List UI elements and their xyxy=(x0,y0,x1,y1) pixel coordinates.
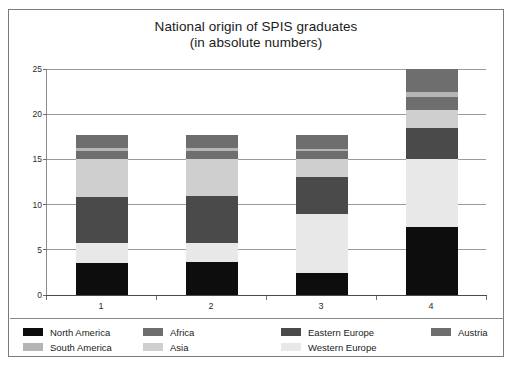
bar-segment-western-europe[interactable] xyxy=(406,159,458,227)
y-tick-mark-25 xyxy=(43,69,47,70)
y-tick-label-0: 0 xyxy=(37,290,42,300)
chart-title-line1: National origin of SPIS graduates xyxy=(155,19,358,34)
bar-segment-south-america[interactable] xyxy=(186,148,238,152)
y-tick-mark-15 xyxy=(43,159,47,160)
bar-segment-africa[interactable] xyxy=(296,151,348,158)
y-tick-label-5: 5 xyxy=(37,245,42,255)
chart-legend: North AmericaSouth AmericaAfricaAsiaEast… xyxy=(23,326,493,356)
x-tick-mark-end xyxy=(486,296,487,300)
x-tick-mark-2 xyxy=(266,296,267,300)
legend-swatch-icon xyxy=(431,328,451,336)
bar-segment-north-america[interactable] xyxy=(406,227,458,295)
legend-swatch-icon xyxy=(143,328,163,336)
chart-title: National origin of SPIS graduates (in ab… xyxy=(9,19,503,51)
x-tick-label-3: 3 xyxy=(318,301,323,311)
legend-label: Africa xyxy=(170,327,194,338)
legend-item-western-europe[interactable]: Western Europe xyxy=(281,341,376,353)
bar-segment-south-america[interactable] xyxy=(296,149,348,152)
legend-item-south-america[interactable]: South America xyxy=(23,341,112,353)
plot-inner: 0510152025 xyxy=(46,69,486,295)
bar-segment-austria[interactable] xyxy=(296,135,348,149)
bar-segment-africa[interactable] xyxy=(406,97,458,110)
legend-label: Austria xyxy=(458,327,488,338)
bar-segment-north-america[interactable] xyxy=(186,262,238,295)
bar-segment-africa[interactable] xyxy=(186,151,238,159)
bar-segment-eastern-europe[interactable] xyxy=(76,197,128,242)
legend-label: North America xyxy=(50,327,110,338)
y-tick-mark-20 xyxy=(43,114,47,115)
legend-swatch-icon xyxy=(23,343,43,351)
chart-frame: National origin of SPIS graduates (in ab… xyxy=(8,9,504,357)
y-tick-label-25: 25 xyxy=(33,64,42,74)
legend-label: Western Europe xyxy=(308,342,376,353)
legend-swatch-icon xyxy=(281,343,301,351)
chart-subtitle: (in absolute numbers) xyxy=(9,35,503,51)
y-tick-mark-10 xyxy=(43,204,47,205)
legend-separator xyxy=(10,318,504,319)
bar-segment-western-europe[interactable] xyxy=(76,243,128,264)
bar-segment-south-america[interactable] xyxy=(76,148,128,152)
legend-label: Eastern Europe xyxy=(308,327,374,338)
legend-item-africa[interactable]: Africa xyxy=(143,326,194,338)
bar-segment-africa[interactable] xyxy=(76,151,128,159)
bar-4[interactable] xyxy=(406,69,458,295)
legend-item-eastern-europe[interactable]: Eastern Europe xyxy=(281,326,374,338)
legend-label: Asia xyxy=(170,342,188,353)
bar-segment-asia[interactable] xyxy=(296,159,348,178)
legend-swatch-icon xyxy=(143,343,163,351)
x-tick-mark-3 xyxy=(376,296,377,300)
bar-segment-north-america[interactable] xyxy=(296,273,348,295)
bar-segment-austria[interactable] xyxy=(406,69,458,92)
legend-swatch-icon xyxy=(23,328,43,336)
y-tick-label-20: 20 xyxy=(33,109,42,119)
plot-area: 0510152025 xyxy=(46,69,486,295)
bar-segment-asia[interactable] xyxy=(186,159,238,196)
legend-label: South America xyxy=(50,342,112,353)
legend-item-asia[interactable]: Asia xyxy=(143,341,188,353)
bar-3[interactable] xyxy=(296,135,348,295)
x-tick-label-2: 2 xyxy=(208,301,213,311)
bar-segment-south-america[interactable] xyxy=(406,92,458,97)
x-tick-label-1: 1 xyxy=(98,301,103,311)
bar-segment-asia[interactable] xyxy=(76,159,128,197)
bar-segment-eastern-europe[interactable] xyxy=(406,128,458,160)
bar-1[interactable] xyxy=(76,135,128,295)
bar-segment-western-europe[interactable] xyxy=(296,214,348,274)
bar-2[interactable] xyxy=(186,135,238,295)
bar-segment-eastern-europe[interactable] xyxy=(296,177,348,213)
x-tick-label-4: 4 xyxy=(428,301,433,311)
bar-segment-north-america[interactable] xyxy=(76,263,128,295)
bar-segment-eastern-europe[interactable] xyxy=(186,196,238,242)
bar-segment-austria[interactable] xyxy=(186,135,238,148)
y-tick-label-10: 10 xyxy=(33,200,42,210)
legend-item-north-america[interactable]: North America xyxy=(23,326,110,338)
bar-segment-asia[interactable] xyxy=(406,110,458,128)
legend-item-austria[interactable]: Austria xyxy=(431,326,488,338)
bar-segment-austria[interactable] xyxy=(76,135,128,148)
legend-swatch-icon xyxy=(281,328,301,336)
y-tick-label-15: 15 xyxy=(33,154,42,164)
y-tick-mark-5 xyxy=(43,249,47,250)
x-tick-mark-0 xyxy=(46,296,47,300)
bar-segment-western-europe[interactable] xyxy=(186,243,238,263)
x-tick-mark-1 xyxy=(156,296,157,300)
